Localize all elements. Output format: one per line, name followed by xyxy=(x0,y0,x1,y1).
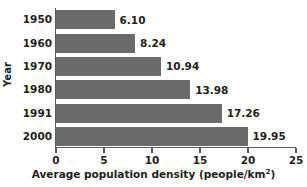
x-axis-tick-label: 0 xyxy=(41,154,71,166)
bar-value-label: 17.26 xyxy=(222,107,260,119)
bar-row: 8.24 xyxy=(56,34,296,53)
x-axis-tick-label: 25 xyxy=(281,154,307,166)
y-axis-tick-label: 1991 xyxy=(14,107,52,119)
plot-area: 6.108.2410.9413.9817.2619.95 xyxy=(56,8,296,148)
bar xyxy=(56,10,115,29)
x-axis-tick xyxy=(103,148,104,153)
bar-row: 6.10 xyxy=(56,10,296,29)
bar-value-label: 13.98 xyxy=(190,84,228,96)
bar-row: 10.94 xyxy=(56,57,296,76)
bar-row: 19.95 xyxy=(56,127,296,146)
bar xyxy=(56,104,222,123)
y-axis-tick-label: 1950 xyxy=(14,13,52,25)
bar-value-label: 19.95 xyxy=(248,130,286,142)
bar-value-label: 6.10 xyxy=(115,14,146,26)
bar xyxy=(56,127,248,146)
y-axis-tick-label: 1980 xyxy=(14,83,52,95)
y-axis-tick-label: 1960 xyxy=(14,37,52,49)
x-axis-tick xyxy=(199,148,200,153)
x-axis-tick-label: 20 xyxy=(233,154,263,166)
bar-value-label: 10.94 xyxy=(161,60,199,72)
bar xyxy=(56,34,135,53)
x-axis-tick-label: 5 xyxy=(89,154,119,166)
x-axis-tick-label: 15 xyxy=(185,154,215,166)
y-axis-tick-label: 1970 xyxy=(14,60,52,72)
bar-row: 13.98 xyxy=(56,80,296,99)
y-axis-tick-label: 2000 xyxy=(14,130,52,142)
bar-value-label: 8.24 xyxy=(135,37,166,49)
x-axis-tick xyxy=(295,148,296,153)
bar xyxy=(56,80,190,99)
x-axis-tick-label: 10 xyxy=(137,154,167,166)
x-axis-title-suffix: ) xyxy=(270,168,275,180)
x-axis-title-text: Average population density (people/km xyxy=(32,168,266,180)
bar-chart: Year 195019601970198019912000 6.108.2410… xyxy=(0,0,307,187)
x-axis-tick xyxy=(151,148,152,153)
x-axis-tick xyxy=(55,148,56,153)
x-axis-tick xyxy=(247,148,248,153)
y-axis-title-text: Year xyxy=(3,61,14,86)
bar-row: 17.26 xyxy=(56,104,296,123)
x-axis-title: Average population density (people/km2) xyxy=(0,168,307,180)
bar xyxy=(56,57,161,76)
